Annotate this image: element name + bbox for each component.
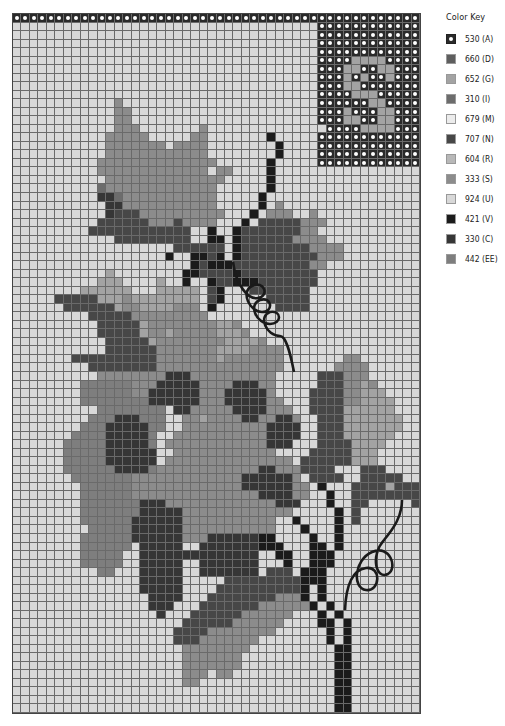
pattern-cell	[123, 704, 131, 713]
pattern-cell	[191, 23, 199, 32]
pattern-cell	[81, 508, 89, 517]
pattern-cell	[242, 14, 250, 23]
pattern-cell	[174, 568, 182, 577]
pattern-cell	[47, 261, 55, 270]
pattern-cell	[13, 167, 21, 176]
pattern-cell	[217, 159, 225, 168]
pattern-cell	[225, 287, 233, 296]
pattern-cell	[191, 585, 199, 594]
pattern-cell	[217, 415, 225, 424]
pattern-cell	[233, 415, 241, 424]
pattern-cell	[318, 560, 326, 569]
pattern-cell	[378, 500, 386, 509]
pattern-cell	[344, 159, 352, 168]
pattern-cell	[378, 176, 386, 185]
pattern-cell	[335, 594, 343, 603]
pattern-cell	[64, 534, 72, 543]
pattern-cell	[242, 704, 250, 713]
pattern-cell	[327, 525, 335, 534]
pattern-cell	[174, 202, 182, 211]
pattern-cell	[30, 31, 38, 40]
pattern-cell	[352, 653, 360, 662]
pattern-cell	[412, 636, 420, 645]
pattern-cell	[200, 406, 208, 415]
pattern-cell	[13, 57, 21, 66]
pattern-cell	[64, 227, 72, 236]
pattern-cell	[132, 270, 140, 279]
pattern-cell	[386, 74, 394, 83]
pattern-cell	[242, 355, 250, 364]
pattern-cell	[72, 244, 80, 253]
pattern-cell	[335, 159, 343, 168]
pattern-cell	[310, 457, 318, 466]
pattern-cell	[250, 662, 258, 671]
pattern-cell	[200, 355, 208, 364]
pattern-cell	[98, 602, 106, 611]
pattern-cell	[98, 508, 106, 517]
pattern-cell	[149, 517, 157, 526]
pattern-cell	[276, 543, 284, 552]
pattern-cell	[115, 389, 123, 398]
pattern-cell	[149, 184, 157, 193]
pattern-cell	[233, 261, 241, 270]
pattern-cell	[233, 568, 241, 577]
pattern-cell	[378, 31, 386, 40]
pattern-cell	[89, 594, 97, 603]
pattern-cell	[310, 304, 318, 313]
pattern-cell	[395, 14, 403, 23]
pattern-cell	[72, 517, 80, 526]
pattern-cell	[98, 679, 106, 688]
pattern-cell	[327, 560, 335, 569]
pattern-cell	[106, 406, 114, 415]
pattern-cell	[183, 628, 191, 637]
pattern-cell	[403, 508, 411, 517]
pattern-cell	[191, 653, 199, 662]
pattern-cell	[98, 432, 106, 441]
pattern-cell	[233, 466, 241, 475]
pattern-cell	[13, 679, 21, 688]
pattern-cell	[386, 108, 394, 117]
pattern-cell	[21, 483, 29, 492]
pattern-cell	[242, 99, 250, 108]
pattern-cell	[310, 406, 318, 415]
pattern-cell	[123, 474, 131, 483]
pattern-cell	[140, 219, 148, 228]
color-key-item: 330 (C)	[446, 229, 505, 249]
pattern-cell	[72, 491, 80, 500]
pattern-cell	[166, 295, 174, 304]
pattern-cell	[378, 210, 386, 219]
pattern-cell	[30, 679, 38, 688]
pattern-cell	[149, 57, 157, 66]
pattern-cell	[310, 363, 318, 372]
pattern-cell	[47, 312, 55, 321]
pattern-cell	[123, 670, 131, 679]
pattern-cell	[149, 398, 157, 407]
pattern-cell	[174, 406, 182, 415]
pattern-cell	[344, 125, 352, 134]
pattern-cell	[183, 577, 191, 586]
pattern-cell	[352, 48, 360, 57]
pattern-cell	[55, 31, 63, 40]
pattern-cell	[140, 40, 148, 49]
pattern-cell	[217, 500, 225, 509]
pattern-cell	[403, 346, 411, 355]
pattern-cell	[183, 108, 191, 117]
pattern-cell	[293, 227, 301, 236]
pattern-cell	[267, 449, 275, 458]
pattern-cell	[225, 65, 233, 74]
pattern-cell	[250, 116, 258, 125]
pattern-cell	[30, 389, 38, 398]
pattern-cell	[89, 389, 97, 398]
pattern-cell	[55, 560, 63, 569]
pattern-cell	[81, 287, 89, 296]
pattern-cell	[106, 312, 114, 321]
pattern-cell	[200, 74, 208, 83]
pattern-cell	[21, 346, 29, 355]
pattern-cell	[21, 65, 29, 74]
pattern-cell	[191, 687, 199, 696]
pattern-cell	[267, 389, 275, 398]
pattern-cell	[412, 304, 420, 313]
pattern-cell	[149, 568, 157, 577]
pattern-cell	[38, 415, 46, 424]
pattern-cell	[30, 184, 38, 193]
